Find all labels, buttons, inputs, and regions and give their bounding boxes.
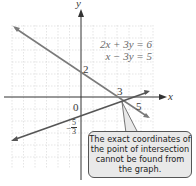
- y-intercept-label-neg-five-thirds: −53: [66, 119, 77, 136]
- y-axis-label: y: [76, 0, 81, 9]
- origin-label: 0: [73, 101, 79, 113]
- y-axis-arrow-icon: [78, 9, 84, 17]
- equation-line2: x − 3y = 5: [96, 50, 152, 63]
- fraction: 53: [71, 119, 77, 136]
- x-axis-arrow-icon: [159, 94, 167, 100]
- callout-box: The exact coordinates of the point of in…: [88, 131, 192, 178]
- x-intercept-label-5: 5: [136, 100, 142, 112]
- x-intercept-label-3: 3: [117, 85, 123, 97]
- line2-arrow-end-icon: [144, 90, 150, 95]
- fraction-denominator: 3: [71, 128, 77, 136]
- x-axis-label: x: [168, 90, 173, 102]
- callout-text: The exact coordinates of the point of in…: [89, 134, 190, 174]
- y-intercept-label-2: 2: [83, 63, 89, 75]
